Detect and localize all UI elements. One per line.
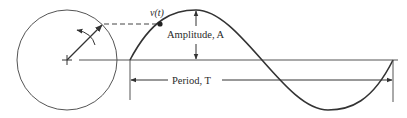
rotation-arrow	[77, 30, 95, 45]
phasor-arrow	[67, 25, 102, 60]
phasor-sinusoid-diagram: v(t) Amplitude, A Period, T	[0, 0, 407, 118]
signal-point	[157, 21, 162, 26]
period-label: Period, T	[172, 75, 211, 86]
amplitude-label: Amplitude, A	[167, 29, 225, 40]
signal-label: v(t)	[150, 7, 165, 19]
